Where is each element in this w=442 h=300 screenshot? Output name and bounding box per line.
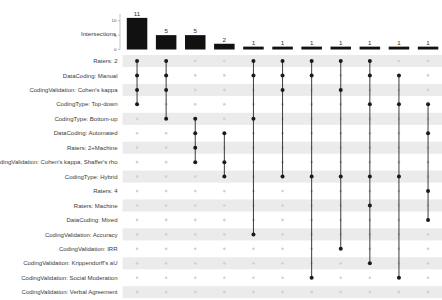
matrix-dot-filled xyxy=(281,88,285,92)
matrix-dot-empty xyxy=(339,276,342,279)
matrix-dot-filled xyxy=(426,218,430,222)
bar-value-label: 1 xyxy=(368,39,372,46)
matrix-dot-filled xyxy=(368,73,372,77)
matrix-dot-empty xyxy=(427,74,430,77)
matrix-dot-empty xyxy=(136,117,139,120)
matrix-dot-filled xyxy=(135,59,139,63)
matrix-dot-empty xyxy=(252,291,255,294)
matrix-dot-empty xyxy=(223,233,226,236)
matrix-dot-empty xyxy=(223,248,226,251)
matrix-dot-filled xyxy=(368,261,372,265)
matrix-dot-filled xyxy=(368,102,372,106)
set-label: CodingType: Hybrid xyxy=(65,174,118,180)
bar-value-label: 1 xyxy=(426,39,430,46)
matrix-dot-filled xyxy=(339,175,343,179)
set-label: CodingValidation: Cohen's kappa, Shaffer… xyxy=(0,159,118,165)
bar-value-label: 1 xyxy=(252,39,256,46)
matrix-dot-empty xyxy=(427,291,430,294)
matrix-dot-empty xyxy=(281,276,284,279)
matrix-dot-empty xyxy=(136,276,139,279)
matrix-dot-empty xyxy=(223,204,226,207)
matrix-dot-empty xyxy=(136,248,139,251)
bar-value-label: 5 xyxy=(194,27,198,34)
matrix-dot-empty xyxy=(339,262,342,265)
matrix-dot-filled xyxy=(339,88,343,92)
matrix-dot-empty xyxy=(252,248,255,251)
matrix-dot-filled xyxy=(193,146,197,150)
intersection-bar xyxy=(331,47,352,50)
set-label: DataCoding: Manual xyxy=(63,73,118,79)
intersection-bar xyxy=(301,47,322,50)
matrix-dot-empty xyxy=(136,262,139,265)
matrix-dot-empty xyxy=(165,146,168,149)
matrix-dot-empty xyxy=(369,276,372,279)
set-label: Raters: 2 xyxy=(93,58,118,64)
matrix-dot-empty xyxy=(427,60,430,63)
matrix-dot-filled xyxy=(164,117,168,121)
bar-value-label: 1 xyxy=(339,39,343,46)
matrix-dot-filled xyxy=(193,117,197,121)
matrix-dot-filled xyxy=(339,247,343,251)
matrix-dot-filled xyxy=(426,189,430,193)
intersection-bar xyxy=(127,18,148,50)
matrix-dot-filled xyxy=(368,175,372,179)
y-axis-tick-label: 10 xyxy=(112,18,117,23)
set-label: DataCoding: Automated xyxy=(54,130,118,136)
matrix-dot-empty xyxy=(136,233,139,236)
matrix-dot-filled xyxy=(164,59,168,63)
matrix-dot-filled xyxy=(310,175,314,179)
intersection-bar xyxy=(418,47,439,50)
matrix-dot-filled xyxy=(310,276,314,280)
bar-value-label: 1 xyxy=(281,39,285,46)
matrix-dot-empty xyxy=(165,190,168,193)
matrix-dot-empty xyxy=(281,248,284,251)
matrix-dot-empty xyxy=(223,89,226,92)
matrix-dot-filled xyxy=(135,102,139,106)
matrix-dot-empty xyxy=(223,117,226,120)
set-label: CodingType: Top-down xyxy=(56,101,117,107)
matrix-dot-empty xyxy=(165,262,168,265)
upset-plot: 0510 Intersections 115521111111 Raters: … xyxy=(0,0,442,300)
matrix-dot-empty xyxy=(223,60,226,63)
matrix-dot-filled xyxy=(251,232,255,236)
matrix-dot-empty xyxy=(136,132,139,135)
matrix-dot-filled xyxy=(281,175,285,179)
matrix-dot-filled xyxy=(426,131,430,135)
matrix-dot-empty xyxy=(281,219,284,222)
matrix-dot-empty xyxy=(136,291,139,294)
matrix-dot-filled xyxy=(164,73,168,77)
matrix-dot-filled xyxy=(222,160,226,164)
matrix-dot-filled xyxy=(281,59,285,63)
matrix-dot-empty xyxy=(136,175,139,178)
matrix-dot-empty xyxy=(194,204,197,207)
bar-value-label: 11 xyxy=(134,10,141,17)
intersection-bar xyxy=(156,35,177,49)
intersection-bar xyxy=(360,47,381,50)
matrix-dot-empty xyxy=(136,146,139,149)
bar-value-labels: 115521111111 xyxy=(134,10,430,46)
matrix-dot-empty xyxy=(194,219,197,222)
matrix-dot-empty xyxy=(398,60,401,63)
matrix-dot-empty xyxy=(194,233,197,236)
set-label: CodingValidation: Accuracy xyxy=(45,232,118,238)
matrix-dot-empty xyxy=(223,291,226,294)
matrix-dot-filled xyxy=(222,175,226,179)
matrix-dot-filled xyxy=(135,73,139,77)
matrix-dot-filled xyxy=(193,131,197,135)
set-name-labels: Raters: 2DataCoding: ManualCodingValidat… xyxy=(0,58,118,295)
matrix-dot-empty xyxy=(252,262,255,265)
matrix-dot-empty xyxy=(427,233,430,236)
matrix-dot-empty xyxy=(281,233,284,236)
matrix-dot-empty xyxy=(427,89,430,92)
matrix-dot-empty xyxy=(165,204,168,207)
matrix-dot-filled xyxy=(310,59,314,63)
matrix-dot-filled xyxy=(397,102,401,106)
matrix-dot-filled xyxy=(222,131,226,135)
bar-value-label: 1 xyxy=(310,39,314,46)
matrix-dot-empty xyxy=(281,190,284,193)
matrix-dot-empty xyxy=(223,219,226,222)
matrix-dot-filled xyxy=(426,102,430,106)
matrix-dot-empty xyxy=(281,204,284,207)
matrix-dot-empty xyxy=(194,103,197,106)
set-label: CodingValidation: Cohen's kappa xyxy=(29,87,118,93)
